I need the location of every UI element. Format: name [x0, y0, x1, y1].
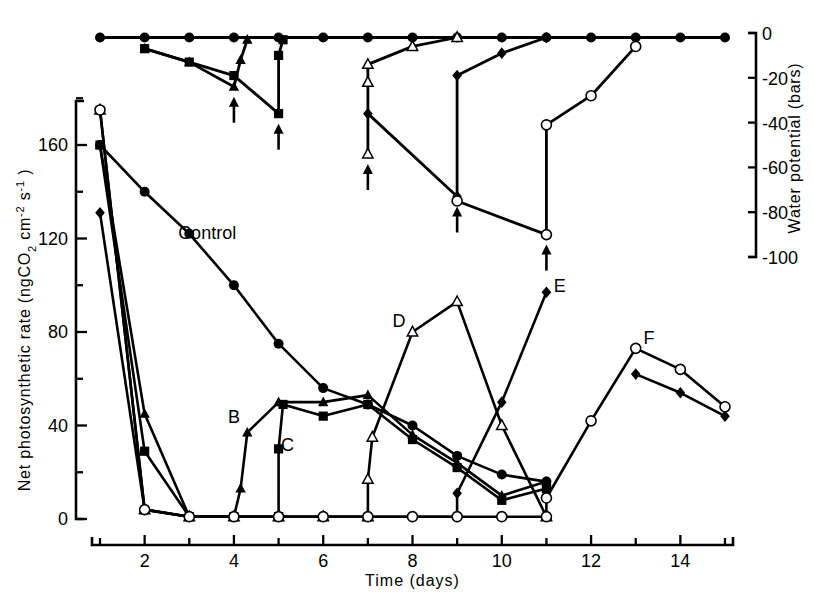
rewater-arrow-icon	[541, 245, 551, 271]
datapoint-control-water-potential	[586, 32, 596, 42]
left-axis-tick-label: 40	[48, 416, 68, 436]
datapoint-Control	[497, 470, 507, 480]
left-axis-tick-label: 120	[38, 229, 68, 249]
series-annotation-b: B	[228, 407, 240, 427]
datapoint-F	[541, 512, 551, 522]
x-axis-tick-label: 8	[407, 551, 417, 571]
datapoint-E	[542, 286, 552, 298]
datapoint-C-water-potential-square	[140, 44, 149, 53]
datapoint-control-water-potential	[720, 32, 730, 42]
datapoint-F	[363, 512, 373, 522]
datapoint-control-water-potential	[675, 32, 685, 42]
right-axis-spine	[748, 33, 756, 257]
datapoint-Control	[408, 421, 418, 431]
datapoint-E-water-potential-diamond	[452, 70, 462, 82]
datapoint-C	[319, 412, 328, 421]
datapoint-B	[235, 483, 245, 493]
datapoint-D-water-potential-open-triangle	[363, 148, 373, 158]
right-axis-tick-label: 0	[762, 24, 772, 44]
left-axis-spine	[76, 101, 84, 519]
right-axis-label: Water potential (bars)	[786, 63, 803, 234]
datapoint-control-water-potential	[229, 32, 239, 42]
rewater-arrow-icon	[363, 164, 373, 190]
series-annotation-c: C	[281, 435, 294, 455]
datapoint-E	[95, 207, 105, 219]
datapoint-control-water-potential	[95, 32, 105, 42]
x-axis-tick-label: 2	[140, 551, 150, 571]
datapoint-C-water-potential-square	[274, 51, 283, 60]
datapoint-Control	[140, 187, 150, 197]
datapoint-control-water-potential	[363, 32, 373, 42]
series-line-C	[100, 145, 546, 517]
series-annotation-d: D	[393, 311, 406, 331]
chart-canvas: 040801201600-20-40-60-80-1002468101214Ti…	[0, 0, 814, 599]
datapoint-B-water-potential-triangle	[242, 34, 252, 44]
datapoint-F	[140, 505, 150, 515]
series-line-Control	[100, 145, 546, 482]
right-axis-tick-label: -20	[762, 69, 788, 89]
datapoint-C-water-potential-square	[278, 35, 287, 44]
datapoint-D	[367, 432, 377, 442]
series-annotation-control: Control	[178, 223, 236, 243]
datapoint-F	[318, 512, 328, 522]
datapoint-Control	[229, 280, 239, 290]
rewater-arrow-icon	[274, 124, 284, 150]
datapoint-F	[497, 512, 507, 522]
series-line-E-water-potential-diamond	[368, 38, 547, 197]
series-annotation-e: E	[554, 276, 566, 296]
series-line-B	[100, 145, 546, 517]
datapoint-F-water-potential-open-circle	[631, 41, 641, 51]
datapoint-F	[95, 105, 105, 115]
datapoint-C-water-potential-square	[185, 58, 194, 67]
datapoint-control-water-potential	[184, 32, 194, 42]
datapoint-C	[408, 435, 417, 444]
datapoint-E	[631, 368, 641, 380]
x-axis-label: Time (days)	[365, 572, 460, 589]
x-axis-tick-label: 10	[492, 551, 512, 571]
datapoint-D-water-potential-open-triangle	[363, 77, 373, 87]
datapoint-E	[676, 387, 686, 399]
datapoint-F	[631, 343, 641, 353]
datapoint-C	[278, 400, 287, 409]
datapoint-C	[453, 463, 462, 472]
bottom-panel-photosynthesis	[95, 104, 730, 522]
datapoint-C	[542, 484, 551, 493]
left-axis-tick-label: 0	[58, 509, 68, 529]
datapoint-control-water-potential	[140, 32, 150, 42]
datapoint-F	[720, 402, 730, 412]
datapoint-control-water-potential	[318, 32, 328, 42]
datapoint-E-water-potential-diamond	[497, 47, 507, 59]
datapoint-C	[140, 447, 149, 456]
left-axis-tick-label: 160	[38, 135, 68, 155]
datapoint-C	[95, 140, 104, 149]
right-axis-tick-label: -60	[762, 158, 788, 178]
datapoint-F	[675, 364, 685, 374]
datapoint-C	[363, 400, 372, 409]
series-line-F-water-potential-open-circle	[457, 46, 636, 234]
datapoint-C-water-potential-square	[274, 109, 283, 118]
datapoint-F	[229, 512, 239, 522]
datapoint-F	[541, 493, 551, 503]
left-axis-label: Net photosynthetic rate (ngCO2 cm-2 s-1 …	[14, 169, 38, 492]
datapoint-C-water-potential-square	[229, 71, 238, 80]
datapoint-D	[497, 420, 507, 430]
datapoint-F	[408, 512, 418, 522]
datapoint-F-water-potential-open-circle	[452, 196, 462, 206]
datapoint-F	[274, 512, 284, 522]
datapoint-Control	[274, 339, 284, 349]
datapoint-F-water-potential-open-circle	[541, 230, 551, 240]
datapoint-F-water-potential-open-circle	[586, 91, 596, 101]
right-axis-tick-label: -40	[762, 114, 788, 134]
x-axis-tick-label: 4	[229, 551, 239, 571]
datapoint-B	[363, 390, 373, 400]
datapoint-control-water-potential	[497, 32, 507, 42]
rewater-arrow-icon	[229, 97, 239, 123]
datapoint-D	[363, 474, 373, 484]
figure-container: 040801201600-20-40-60-80-1002468101214Ti…	[0, 0, 814, 599]
datapoint-F	[452, 512, 462, 522]
series-line-F	[100, 110, 725, 517]
datapoint-C	[497, 496, 506, 505]
datapoint-D	[407, 326, 417, 336]
left-axis-tick-label: 80	[48, 322, 68, 342]
datapoint-F-water-potential-open-circle	[541, 120, 551, 130]
